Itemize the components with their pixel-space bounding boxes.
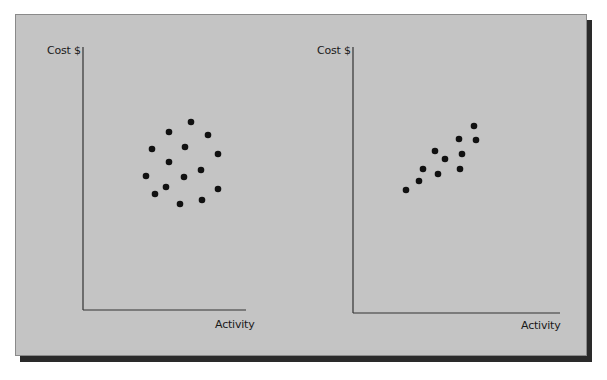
data-point: [166, 129, 173, 136]
left-chart-points: [143, 119, 222, 208]
data-point: [457, 166, 464, 173]
data-point: [181, 174, 188, 181]
data-point: [442, 156, 449, 163]
data-point: [143, 173, 150, 180]
data-point: [152, 191, 159, 198]
data-point: [403, 187, 410, 194]
data-point: [199, 197, 206, 204]
data-point: [205, 132, 212, 139]
right-y-axis-label: Cost $: [317, 44, 351, 57]
scatter-plots: [0, 0, 607, 380]
data-point: [416, 178, 423, 185]
data-point: [215, 186, 222, 193]
data-point: [459, 151, 466, 158]
data-point: [198, 167, 205, 174]
left-x-axis-label: Activity: [215, 318, 255, 331]
data-point: [435, 171, 442, 178]
right-chart-axes: [353, 47, 560, 313]
data-point: [432, 148, 439, 155]
data-point: [163, 184, 170, 191]
data-point: [471, 123, 478, 130]
data-point: [182, 144, 189, 151]
data-point: [456, 136, 463, 143]
data-point: [215, 151, 222, 158]
data-point: [188, 119, 195, 126]
data-point: [420, 166, 427, 173]
right-chart-points: [403, 123, 480, 194]
data-point: [166, 159, 173, 166]
left-y-axis-label: Cost $: [47, 44, 81, 57]
right-x-axis-label: Activity: [521, 319, 561, 332]
data-point: [177, 201, 184, 208]
left-chart-axes: [83, 47, 246, 310]
data-point: [473, 137, 480, 144]
data-point: [149, 146, 156, 153]
